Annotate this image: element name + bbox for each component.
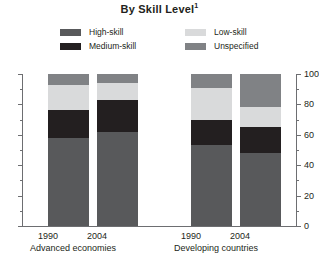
- y-tick-right-10: [297, 211, 299, 212]
- bar-advanced-economies-1990[interactable]: [48, 74, 89, 226]
- bar-segment-unspecified[interactable]: [240, 74, 281, 107]
- bar-segment-medium-skill[interactable]: [240, 127, 281, 153]
- bar-segment-medium-skill[interactable]: [48, 110, 89, 137]
- chart-plot-area: 020406080100: [22, 74, 297, 227]
- y-tick-left-30: [20, 180, 22, 181]
- chart-title-text: By Skill Level: [121, 3, 195, 15]
- y-axis-label-80: 80: [304, 100, 314, 109]
- bar-segment-medium-skill[interactable]: [191, 120, 232, 146]
- y-tick-left-60: [18, 135, 22, 136]
- legend-item-high-skill: High-skill: [60, 27, 123, 37]
- y-axis-label-60: 60: [304, 130, 314, 139]
- bar-developing-countries-1990[interactable]: [191, 74, 232, 226]
- y-tick-right-90: [297, 89, 299, 90]
- bar-segment-low-skill[interactable]: [240, 107, 281, 127]
- y-tick-right-0: [297, 226, 301, 227]
- bar-segment-low-skill[interactable]: [191, 88, 232, 120]
- y-axis-label-0: 0: [304, 222, 309, 231]
- y-tick-left-20: [18, 196, 22, 197]
- y-tick-right-40: [297, 165, 301, 166]
- chart-title-footnote-marker: 1: [194, 2, 198, 9]
- legend-label-low-skill: Low-skill: [214, 27, 247, 37]
- bar-advanced-economies-2004[interactable]: [97, 74, 138, 226]
- x-label-developing-2004: 2004: [210, 231, 270, 241]
- y-tick-left-100: [18, 74, 22, 75]
- bar-segment-high-skill[interactable]: [240, 153, 281, 226]
- bar-segment-low-skill[interactable]: [48, 85, 89, 111]
- y-tick-right-60: [297, 135, 301, 136]
- y-axis-label-20: 20: [304, 191, 314, 200]
- legend-swatch-high-skill: [60, 29, 81, 36]
- group-label-developing-countries: Developing countries: [151, 243, 281, 253]
- bar-segment-unspecified[interactable]: [191, 74, 232, 88]
- x-label-advanced-2004: 2004: [67, 231, 127, 241]
- y-axis-label-100: 100: [304, 70, 319, 79]
- legend-label-high-skill: High-skill: [89, 27, 123, 37]
- y-axis-left-line: [22, 74, 23, 227]
- bar-segment-medium-skill[interactable]: [97, 100, 138, 132]
- bar-segment-unspecified[interactable]: [97, 74, 138, 83]
- page-title: By Skill Level1: [0, 2, 319, 15]
- bar-segment-high-skill[interactable]: [191, 145, 232, 226]
- y-tick-left-80: [18, 104, 22, 105]
- legend-swatch-unspecified: [185, 43, 206, 50]
- y-tick-right-30: [297, 180, 299, 181]
- y-tick-left-0: [18, 226, 22, 227]
- y-tick-right-50: [297, 150, 299, 151]
- y-tick-right-100: [297, 74, 301, 75]
- bar-developing-countries-2004[interactable]: [240, 74, 281, 226]
- legend-item-low-skill: Low-skill: [185, 27, 247, 37]
- y-tick-right-70: [297, 120, 299, 121]
- y-tick-right-20: [297, 196, 301, 197]
- y-tick-left-40: [18, 165, 22, 166]
- bar-segment-low-skill[interactable]: [97, 83, 138, 100]
- legend-label-unspecified: Unspecified: [214, 41, 258, 51]
- y-tick-left-90: [20, 89, 22, 90]
- legend-item-medium-skill: Medium-skill: [60, 41, 136, 51]
- chart-legend: High-skill Medium-skill Low-skill Unspec…: [0, 27, 319, 55]
- bar-segment-high-skill[interactable]: [48, 138, 89, 226]
- bar-segment-unspecified[interactable]: [48, 74, 89, 85]
- y-tick-right-80: [297, 104, 301, 105]
- legend-label-medium-skill: Medium-skill: [89, 41, 136, 51]
- legend-swatch-medium-skill: [60, 43, 81, 50]
- y-tick-left-10: [20, 211, 22, 212]
- legend-swatch-low-skill: [185, 29, 206, 36]
- y-axis-label-40: 40: [304, 161, 314, 170]
- y-tick-left-50: [20, 150, 22, 151]
- legend-item-unspecified: Unspecified: [185, 41, 258, 51]
- y-tick-left-70: [20, 120, 22, 121]
- group-label-advanced-economies: Advanced economies: [8, 243, 138, 253]
- footnote-rule: [126, 272, 192, 274]
- bar-segment-high-skill[interactable]: [97, 132, 138, 226]
- x-axis-line: [22, 226, 297, 227]
